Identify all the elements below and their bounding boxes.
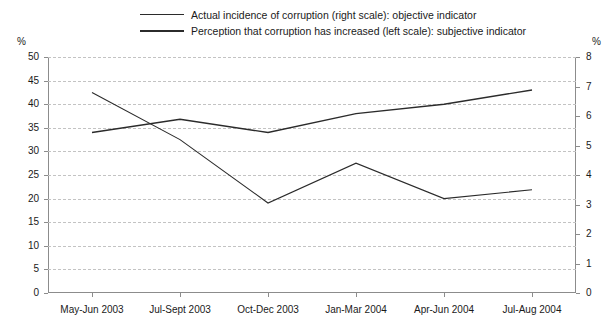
x-axis-tick-label: Jul-Sept 2003	[149, 304, 211, 315]
right-axis-tick	[576, 175, 580, 176]
legend-line-swatch-perception	[140, 30, 184, 32]
x-axis-tick-label: Jan-Mar 2004	[325, 304, 387, 315]
right-axis-tick-label: 7	[586, 82, 592, 92]
legend-line-swatch-actual-incidence	[140, 14, 184, 15]
x-axis-tick-label: Jul-Aug 2004	[503, 304, 562, 315]
left-axis-tick-label: 5	[33, 264, 39, 274]
series-layer	[48, 57, 576, 293]
legend-label-perception: Perception that corruption has increased…	[191, 25, 526, 37]
right-axis-tick-label: 6	[586, 111, 592, 121]
right-axis-tick	[576, 116, 580, 117]
right-axis-tick	[576, 57, 580, 58]
chart-root: Actual incidence of corruption (right sc…	[0, 0, 616, 333]
x-axis-tick	[92, 293, 93, 297]
right-axis-tick	[576, 234, 580, 235]
legend-item-actual-incidence: Actual incidence of corruption (right sc…	[140, 8, 526, 21]
left-axis-tick-label: 45	[28, 76, 39, 86]
right-axis-tick	[576, 146, 580, 147]
right-axis-tick-label: 4	[586, 170, 592, 180]
x-axis-tick	[532, 293, 533, 297]
plot-area: 05101520253035404550 012345678 May-Jun 2…	[48, 57, 576, 293]
x-axis-tick-label: May-Jun 2003	[60, 304, 123, 315]
left-axis-tick-label: 10	[28, 241, 39, 251]
left-axis-tick-label: 30	[28, 146, 39, 156]
right-axis-unit: %	[592, 36, 601, 47]
left-axis-tick-label: 40	[28, 99, 39, 109]
x-axis-tick	[444, 293, 445, 297]
x-axis-tick	[268, 293, 269, 297]
legend-item-perception: Perception that corruption has increased…	[140, 24, 526, 37]
left-axis-tick-label: 20	[28, 194, 39, 204]
right-axis-tick-label: 0	[586, 288, 592, 298]
left-axis-tick	[44, 293, 48, 294]
x-axis-tick-label: Apr-Jun 2004	[414, 304, 474, 315]
chart-legend: Actual incidence of corruption (right sc…	[140, 8, 526, 37]
left-axis-tick-label: 35	[28, 123, 39, 133]
right-axis-tick-label: 2	[586, 229, 592, 239]
legend-label-actual-incidence: Actual incidence of corruption (right sc…	[191, 9, 476, 21]
series-line-perception	[92, 90, 532, 132]
series-line-actual-incidence	[92, 92, 532, 203]
right-axis-tick-label: 5	[586, 141, 592, 151]
right-axis-tick	[576, 264, 580, 265]
left-axis-tick-label: 15	[28, 217, 39, 227]
x-axis-tick	[180, 293, 181, 297]
left-axis-tick-label: 25	[28, 170, 39, 180]
x-axis-tick	[356, 293, 357, 297]
x-axis-tick-label: Oct-Dec 2003	[237, 304, 299, 315]
right-axis-tick	[576, 293, 580, 294]
left-axis-unit: %	[17, 36, 26, 47]
right-axis-tick-label: 1	[586, 259, 592, 269]
right-axis-tick-label: 8	[586, 52, 592, 62]
left-axis-tick-label: 50	[28, 52, 39, 62]
right-axis-tick-label: 3	[586, 200, 592, 210]
right-axis-tick	[576, 205, 580, 206]
left-axis-tick-label: 0	[33, 288, 39, 298]
right-axis-tick	[576, 87, 580, 88]
